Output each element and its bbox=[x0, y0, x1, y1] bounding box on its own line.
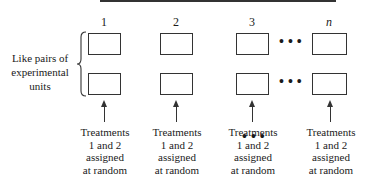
treatment-label-line: at random bbox=[70, 164, 140, 177]
column-label-3: 3 bbox=[235, 15, 269, 30]
treatment-label-line: Treatments bbox=[296, 126, 366, 139]
unit-box-n-top bbox=[312, 33, 347, 55]
side-label-line: Like pairs of bbox=[4, 51, 76, 65]
curly-brace-icon bbox=[76, 31, 88, 97]
unit-box-2-bottom bbox=[160, 73, 193, 95]
side-label-line: units bbox=[4, 79, 76, 93]
treatment-label-line: at random bbox=[296, 164, 366, 177]
treatment-label-line: assigned bbox=[70, 151, 140, 164]
treatment-label-2: Treatments 1 and 2 assigned at random bbox=[142, 126, 212, 176]
treatment-label-line: assigned bbox=[296, 151, 366, 164]
treatment-label-line: 1 and 2 bbox=[70, 139, 140, 152]
treatment-label-line: 1 and 2 bbox=[142, 139, 212, 152]
unit-box-1-top bbox=[88, 33, 121, 55]
treatment-label-line: at random bbox=[218, 164, 288, 177]
treatment-label-line: Treatments bbox=[218, 126, 288, 139]
arrow-shaft bbox=[104, 106, 105, 122]
column-label-2: 2 bbox=[159, 15, 193, 30]
arrow-shaft bbox=[176, 106, 177, 122]
treatment-label-line: Treatments bbox=[142, 126, 212, 139]
column-label-n: n bbox=[312, 15, 346, 30]
treatment-label-n: Treatments 1 and 2 assigned at random bbox=[296, 126, 366, 176]
unit-box-n-bottom bbox=[312, 73, 347, 95]
column-label-1: 1 bbox=[87, 15, 121, 30]
treatment-label-1: Treatments 1 and 2 assigned at random bbox=[70, 126, 140, 176]
unit-box-1-bottom bbox=[88, 73, 121, 95]
side-label-line: experimental bbox=[4, 65, 76, 79]
arrow-shaft bbox=[330, 106, 331, 122]
treatment-label-3: Treatments 1 and 2 assigned at random bbox=[218, 126, 288, 176]
unit-box-3-bottom bbox=[236, 73, 269, 95]
side-label: Like pairs of experimental units bbox=[4, 51, 76, 93]
treatment-label-line: 1 and 2 bbox=[296, 139, 366, 152]
top-rule bbox=[100, 0, 336, 2]
arrow-shaft bbox=[252, 106, 253, 122]
treatment-label-line: 1 and 2 bbox=[218, 139, 288, 152]
ellipsis-top: ••• bbox=[279, 34, 306, 50]
treatment-label-line: Treatments bbox=[70, 126, 140, 139]
unit-box-2-top bbox=[160, 33, 193, 55]
treatment-label-line: assigned bbox=[142, 151, 212, 164]
unit-box-3-top bbox=[236, 33, 269, 55]
treatment-label-line: assigned bbox=[218, 151, 288, 164]
ellipsis-bottom: ••• bbox=[279, 74, 306, 90]
treatment-label-line: at random bbox=[142, 164, 212, 177]
